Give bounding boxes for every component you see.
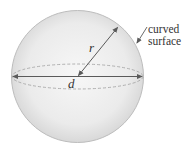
callout-leader-arrow [137,27,147,43]
callout-line-2: surface [148,35,181,47]
curved-surface-label: curved surface [148,23,181,47]
diameter-label: d [68,77,75,90]
sphere-diagram: r d curved surface [0,0,192,152]
radius-label: r [89,41,94,54]
callout-line-1: curved [148,23,181,35]
